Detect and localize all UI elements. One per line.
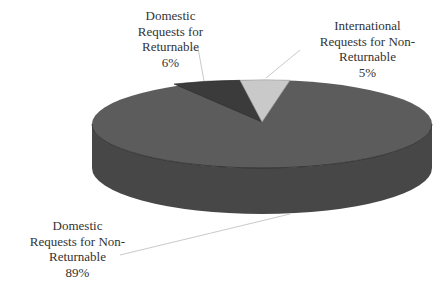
label-domestic-returnable: Domestic Requests for Returnable 6% xyxy=(118,8,223,70)
label-line: Domestic xyxy=(15,218,140,234)
label-line: Requests for xyxy=(118,24,223,40)
leader-line-international xyxy=(266,50,300,78)
label-line: Requests for Non- xyxy=(15,234,140,250)
label-line: Returnable xyxy=(15,249,140,265)
label-domestic-non-returnable: Domestic Requests for Non- Returnable 89… xyxy=(15,218,140,280)
label-international-non-returnable: International Requests for Non- Returnab… xyxy=(305,18,430,80)
label-line: International xyxy=(305,18,430,34)
label-percent: 5% xyxy=(305,65,430,81)
label-percent: 6% xyxy=(118,55,223,71)
label-line: Requests for Non- xyxy=(305,34,430,50)
label-line: Returnable xyxy=(118,39,223,55)
leader-line-domestic-non-returnable xyxy=(120,214,290,255)
label-line: Returnable xyxy=(305,49,430,65)
label-percent: 89% xyxy=(15,265,140,281)
label-line: Domestic xyxy=(118,8,223,24)
